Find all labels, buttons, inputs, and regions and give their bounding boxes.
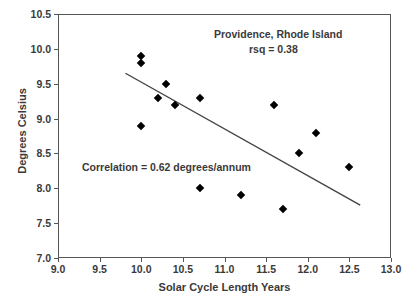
plot-area [58,14,391,258]
y-axis-tick [54,14,58,15]
y-axis-tick [54,188,58,189]
y-axis-tick-label: 9.5 [36,78,51,90]
x-axis-tick-label: 10.0 [131,263,151,275]
y-axis-tick-label: 9.0 [36,113,51,125]
annotation-location: Providence, Rhode Island [214,28,342,40]
y-axis-tick-label: 10.5 [31,8,51,20]
trendline [58,14,391,258]
y-axis-tick-label: 7.5 [36,217,51,229]
y-axis-tick [54,84,58,85]
y-axis-tick [54,223,58,224]
y-axis-title: Degrees Celsius [16,51,28,211]
x-axis-tick-label: 11.5 [256,263,276,275]
scatter-chart: 7.07.58.08.59.09.510.010.5 9.09.510.010.… [0,0,411,302]
x-axis-tick-label: 11.0 [215,263,235,275]
x-axis-tick-label: 9.0 [51,263,66,275]
x-axis-title: Solar Cycle Length Years [58,281,391,293]
x-axis-tick [225,258,226,262]
x-axis-tick [266,258,267,262]
x-axis-tick-label: 12.5 [339,263,359,275]
x-axis-tick-label: 12.0 [298,263,318,275]
x-axis-tick [58,258,59,262]
x-axis-tick [391,258,392,262]
annotation-correlation: Correlation = 0.62 degrees/annum [82,161,251,173]
y-axis-tick-label: 7.0 [36,252,51,264]
y-axis-tick-label: 8.5 [36,147,51,159]
x-axis-tick-labels: 9.09.510.010.511.011.512.012.513.0 [58,263,391,279]
x-axis-tick-label: 13.0 [381,263,401,275]
x-axis-tick [141,258,142,262]
y-axis-tick-label: 8.0 [36,182,51,194]
y-axis-tick [54,49,58,50]
x-axis-tick-label: 10.5 [173,263,193,275]
annotation-rsq: rsq = 0.38 [249,43,298,55]
y-axis-tick [54,153,58,154]
x-axis-tick [183,258,184,262]
x-axis-tick [349,258,350,262]
x-axis-tick [100,258,101,262]
x-axis-tick-label: 9.5 [92,263,107,275]
y-axis-tick-label: 10.0 [31,43,51,55]
y-axis-tick [54,119,58,120]
x-axis-tick [308,258,309,262]
